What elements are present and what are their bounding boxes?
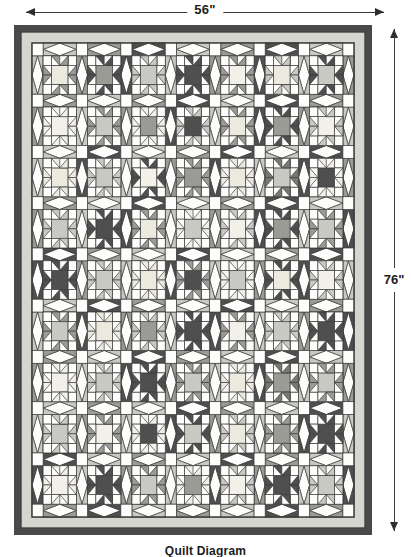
arrow-up-icon [390,29,398,38]
arrow-right-icon [375,8,384,16]
arrow-down-icon [390,522,398,531]
arrow-left-icon [26,8,35,16]
quilt-canvas [14,25,372,535]
diagram-caption: Quilt Diagram [0,544,411,557]
width-dimension: 56" [26,4,384,20]
width-label: 56" [187,2,223,18]
quilt-diagram [14,25,372,535]
height-label: 76" [384,268,405,292]
height-dimension: 76" [386,29,402,531]
